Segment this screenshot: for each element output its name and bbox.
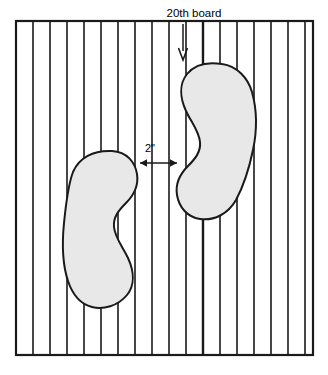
right-footprint xyxy=(177,63,256,219)
left-footprint xyxy=(63,151,138,308)
floorboard-footprint-diagram: 20th board 2" xyxy=(0,0,328,375)
diagram-canvas: 20th board 2" xyxy=(0,0,328,375)
dimension-arrowhead-left xyxy=(140,159,147,167)
board-label-text: 20th board xyxy=(167,7,222,19)
footprints-group xyxy=(63,63,256,308)
dimension-line-2in xyxy=(140,159,177,167)
dimension-arrowhead-right xyxy=(170,159,177,167)
floor-frame xyxy=(16,21,313,355)
dimension-label-text: 2" xyxy=(145,142,155,154)
